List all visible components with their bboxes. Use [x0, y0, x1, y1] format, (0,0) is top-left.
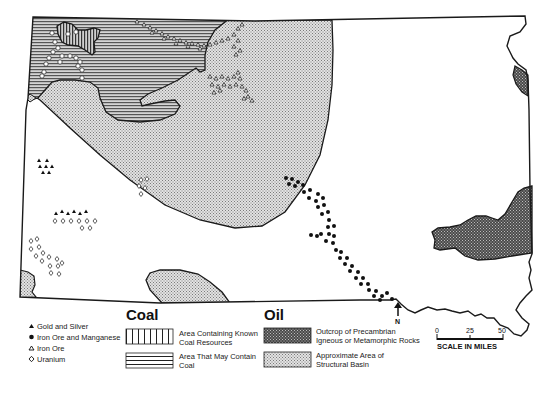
coal-heading: Coal: [126, 306, 159, 323]
state-map-area: [20, 15, 532, 336]
iron-manganese-legend-icon: [29, 335, 34, 340]
structural-basin-swatch: [264, 352, 311, 367]
gold-silver-legend-icon: [29, 324, 34, 328]
scale-title: SCALE IN MILES: [437, 342, 497, 351]
legend-gold-silver: Gold and Silver: [37, 322, 89, 331]
possible-coal-label-2: Coal: [179, 361, 195, 370]
legend-uranium: Uranium: [37, 355, 65, 364]
known-coal-label-1: Area Containing Known: [179, 329, 258, 338]
structural-basin-label-2: Structural Basin: [316, 360, 369, 369]
possible-coal-label-1: Area That May Contain: [179, 352, 256, 361]
scale-tick-0: 0: [435, 327, 439, 334]
legend-iron-ore: Iron Ore: [37, 344, 65, 353]
precambrian-label-1: Outcrop of Precambrian: [316, 327, 396, 336]
legend-oil: Oil Outcrop of Precambrian Igneous or Me…: [264, 306, 420, 369]
precambrian-label-2: Igneous or Metamorphic Rocks: [316, 336, 420, 345]
scale-tick-50: 50: [498, 327, 506, 334]
scale-tick-25: 25: [466, 327, 474, 334]
iron-ore-legend-icon: [29, 346, 34, 350]
known-coal-swatch: [126, 329, 173, 344]
possible-coal-swatch: [126, 353, 173, 368]
north-arrow-label: N: [395, 318, 400, 325]
legend-iron-manganese: Iron Ore and Manganese: [37, 333, 120, 342]
legend-coal: Coal Area Containing Known Coal Resource…: [126, 306, 258, 370]
north-arrow: N: [394, 302, 402, 325]
uranium-legend-icon: [29, 356, 34, 361]
legend-minerals: Gold and Silver Iron Ore and Manganese I…: [29, 322, 120, 364]
resource-map: N 0 25 50 SCALE IN MILES Gold and Silver…: [0, 0, 555, 394]
structural-basin-label-1: Approximate Area of: [316, 351, 385, 360]
oil-heading: Oil: [264, 306, 284, 323]
known-coal-label-2: Coal Resources: [179, 338, 233, 347]
scale-bar: 0 25 50 SCALE IN MILES: [435, 327, 506, 351]
precambrian-swatch: [264, 328, 311, 343]
